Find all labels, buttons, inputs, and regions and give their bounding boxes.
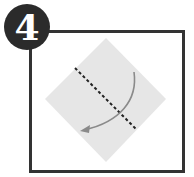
step-number: 4 bbox=[14, 9, 39, 45]
paper-diamond bbox=[45, 38, 166, 162]
step-number-badge: 4 bbox=[4, 4, 50, 50]
